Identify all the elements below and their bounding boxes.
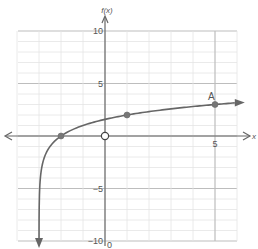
axis-labels: 105−5−1050xf(x)A: [88, 6, 257, 249]
y-tick-label: 10: [93, 26, 103, 36]
y-tick-label: 5: [98, 79, 103, 89]
x-axis-label: x: [251, 132, 257, 141]
curve-right-arrow-icon: [235, 99, 245, 107]
data-point: [124, 112, 130, 118]
axes: [5, 16, 250, 246]
y-tick-label: −5: [93, 184, 103, 194]
origin-open-circle: [101, 132, 108, 139]
function-curve: [35, 99, 245, 248]
function-graph: 105−5−1050xf(x)A: [0, 0, 258, 249]
x-tick-label: 5: [212, 139, 217, 149]
y-tick-label: −10: [88, 236, 103, 246]
curve-down-arrow-icon: [35, 238, 43, 248]
y-axis-label: f(x): [101, 6, 113, 15]
point-label-a: A: [208, 91, 215, 102]
origin-label: 0: [107, 240, 112, 249]
data-point: [212, 102, 218, 108]
data-point: [58, 133, 64, 139]
